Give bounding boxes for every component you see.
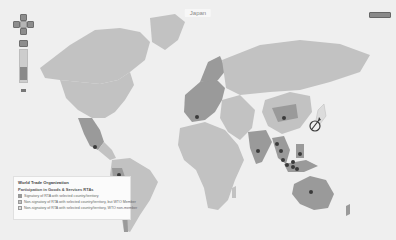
legend-swatch-signatory [18,194,22,198]
marker-indonesia[interactable] [291,165,295,169]
marker-philippines[interactable] [298,152,302,156]
top-right-button[interactable] [369,12,391,18]
marker-vietnam[interactable] [275,142,279,146]
map-canvas[interactable]: Japan World Trade Organization Participa… [0,0,396,240]
marker-brunei[interactable] [291,160,295,164]
zoom-control [19,40,28,92]
marker-mongolia[interactable] [282,116,286,120]
region-madagascar[interactable] [232,186,236,198]
zoom-slider[interactable] [19,49,28,83]
legend-swatch-non-member [18,206,22,210]
legend-item: Non-signatory of RTA with selected count… [18,200,126,204]
legend-swatch-wto-member [18,200,22,204]
pan-control [13,14,35,36]
marker-mexico[interactable] [93,145,97,149]
marker-singapore[interactable] [285,163,289,167]
region-new-zealand[interactable] [346,204,350,216]
legend-item: Non-signatory of RTA with selected count… [18,206,126,210]
legend-item: Signatory of RTA with selected country/t… [18,194,126,198]
pan-up-button[interactable] [20,14,27,21]
zoom-out-button[interactable] [21,89,26,92]
pan-right-button[interactable] [27,21,34,28]
marker-indonesia-east[interactable] [295,167,299,171]
marker-australia[interactable] [309,190,313,194]
legend-subtitle: Participation in Goods & Services RTAs [18,187,126,192]
legend-item-label: Signatory of RTA with selected country/t… [24,194,99,198]
legend-item-label: Non-signatory of RTA with selected count… [24,200,136,204]
legend-title: World Trade Organization [18,180,126,185]
zoom-in-button[interactable] [19,40,28,47]
marker-malaysia[interactable] [281,158,285,162]
map-title: Japan [185,9,211,17]
marker-india[interactable] [256,149,260,153]
legend-item-label: Non-signatory of RTA with selected count… [24,206,137,210]
marker-switzerland[interactable] [195,115,199,119]
pan-down-button[interactable] [20,28,27,35]
zoom-slider-thumb[interactable] [20,67,27,80]
map-legend: World Trade Organization Participation i… [13,176,131,220]
pan-reset-button[interactable] [20,21,27,28]
pan-left-button[interactable] [13,21,20,28]
marker-thailand[interactable] [279,149,283,153]
